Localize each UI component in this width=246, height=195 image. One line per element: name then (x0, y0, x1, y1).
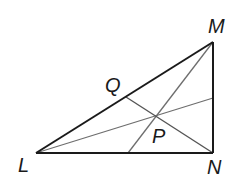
cevian-from-L (36, 98, 213, 153)
label-N: N (207, 156, 222, 178)
label-P: P (152, 125, 166, 147)
cevian-from-N-to-Q (126, 97, 213, 153)
label-M: M (208, 15, 225, 37)
label-L: L (18, 154, 29, 176)
cevian-from-M (128, 42, 213, 153)
triangle-diagram: M Q P L N (0, 0, 246, 195)
label-Q: Q (105, 74, 121, 96)
